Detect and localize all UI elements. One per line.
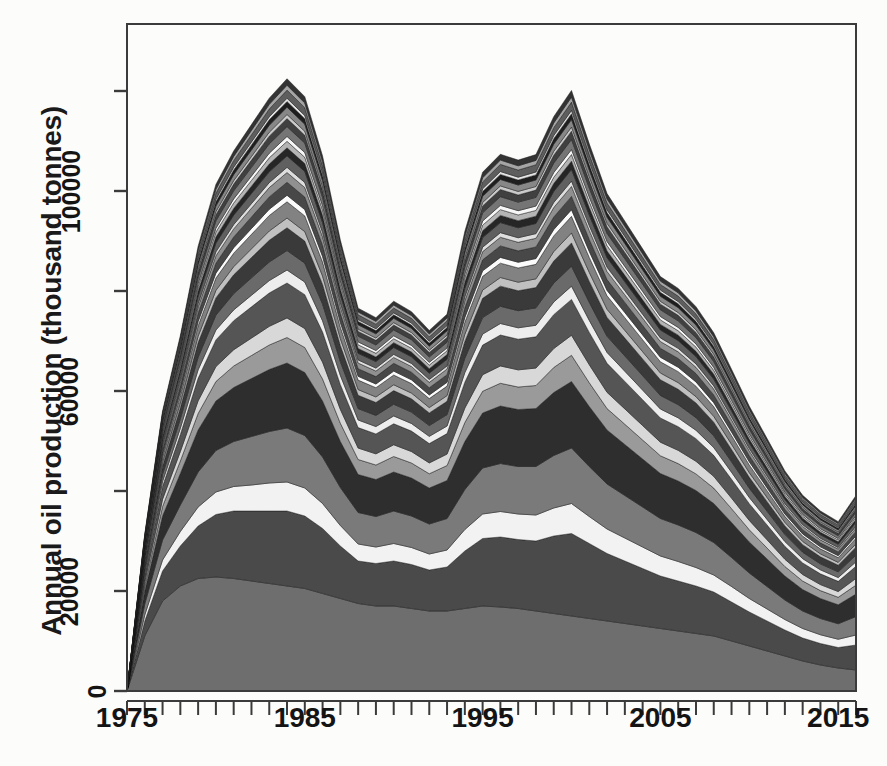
plot-area — [127, 24, 856, 691]
y-tick-label-60000: 60000 — [30, 377, 105, 406]
y-tick-label-text: 100000 — [57, 150, 86, 233]
x-tick-label-1995: 1995 — [451, 702, 513, 734]
y-tick-label-20000: 20000 — [30, 577, 105, 606]
x-axis-tick-labels: 19751985199520052015 — [0, 698, 887, 744]
x-tick-label-2015: 2015 — [807, 702, 869, 734]
y-tick-label-text: 20000 — [56, 557, 85, 627]
y-tick-label-100000: 100000 — [30, 177, 105, 206]
y-axis-tick-labels: 02000060000100000 — [30, 0, 105, 766]
x-tick-label-2005: 2005 — [629, 702, 691, 734]
x-tick-label-1975: 1975 — [96, 702, 158, 734]
figure-container: Annual oil production (thousand tonnes) … — [0, 0, 887, 766]
stacked-area-series — [127, 24, 856, 691]
x-tick-label-1985: 1985 — [274, 702, 336, 734]
y-tick-label-text: 60000 — [56, 357, 85, 427]
y-tick-label-text: 0 — [84, 685, 113, 699]
